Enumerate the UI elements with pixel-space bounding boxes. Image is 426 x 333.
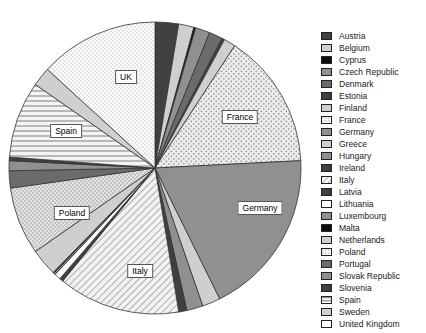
- legend-swatch-icon: [321, 188, 332, 196]
- legend-item-cyprus[interactable]: Cyprus: [321, 54, 426, 66]
- legend-item-germany[interactable]: Germany: [321, 126, 426, 138]
- legend-item-portugal[interactable]: Portugal: [321, 258, 426, 270]
- legend-label: Poland: [339, 247, 365, 257]
- legend-label: Portugal: [339, 259, 371, 269]
- slice-label-poland: Poland: [54, 206, 90, 220]
- legend-item-slovak-republic[interactable]: Slovak Republic: [321, 270, 426, 282]
- legend-label: Cyprus: [339, 55, 366, 65]
- legend-label: Netherlands: [339, 235, 385, 245]
- legend-swatch-icon: [321, 152, 332, 160]
- legend-label: Hungary: [339, 151, 371, 161]
- legend-item-luxembourg[interactable]: Luxembourg: [321, 210, 426, 222]
- chart-legend: AustriaBelgiumCyprusCzech RepublicDenmar…: [321, 30, 426, 330]
- legend-label: Finland: [339, 103, 367, 113]
- legend-label: Slovak Republic: [339, 271, 400, 281]
- legend-item-austria[interactable]: Austria: [321, 30, 426, 42]
- legend-item-italy[interactable]: Italy: [321, 174, 426, 186]
- legend-swatch-icon: [321, 92, 332, 100]
- legend-label: Belgium: [339, 43, 370, 53]
- legend-label: Luxembourg: [339, 211, 386, 221]
- legend-item-united-kingdom[interactable]: United Kingdom: [321, 318, 426, 330]
- legend-swatch-icon: [321, 128, 332, 136]
- legend-swatch-icon: [321, 284, 332, 292]
- legend-swatch-icon: [321, 248, 332, 256]
- legend-swatch-icon: [321, 68, 332, 76]
- legend-label: Sweden: [339, 307, 370, 317]
- legend-item-belgium[interactable]: Belgium: [321, 42, 426, 54]
- legend-label: Estonia: [339, 91, 367, 101]
- legend-swatch-icon: [321, 56, 332, 64]
- legend-label: Lithuania: [339, 199, 374, 209]
- legend-item-latvia[interactable]: Latvia: [321, 186, 426, 198]
- legend-item-france[interactable]: France: [321, 114, 426, 126]
- legend-swatch-icon: [321, 260, 332, 268]
- legend-item-greece[interactable]: Greece: [321, 138, 426, 150]
- legend-label: Ireland: [339, 163, 365, 173]
- legend-label: Austria: [339, 31, 365, 41]
- legend-swatch-icon: [321, 308, 332, 316]
- legend-swatch-icon: [321, 140, 332, 148]
- legend-item-estonia[interactable]: Estonia: [321, 90, 426, 102]
- legend-item-hungary[interactable]: Hungary: [321, 150, 426, 162]
- legend-label: Slovenia: [339, 283, 372, 293]
- legend-swatch-icon: [321, 80, 332, 88]
- pie-chart-figure: FranceGermanyItalyPolandSpainUK AustriaB…: [0, 0, 426, 333]
- legend-item-finland[interactable]: Finland: [321, 102, 426, 114]
- slice-label-spain: Spain: [50, 124, 82, 138]
- legend-swatch-icon: [321, 44, 332, 52]
- slice-label-france: France: [222, 110, 258, 124]
- legend-label: United Kingdom: [339, 319, 399, 329]
- legend-label: Malta: [339, 223, 360, 233]
- legend-item-czech-republic[interactable]: Czech Republic: [321, 66, 426, 78]
- legend-label: Germany: [339, 127, 374, 137]
- legend-label: Spain: [339, 295, 361, 305]
- legend-item-spain[interactable]: Spain: [321, 294, 426, 306]
- legend-swatch-icon: [321, 224, 332, 232]
- legend-item-ireland[interactable]: Ireland: [321, 162, 426, 174]
- legend-label: Czech Republic: [339, 67, 399, 77]
- legend-swatch-icon: [321, 200, 332, 208]
- legend-item-sweden[interactable]: Sweden: [321, 306, 426, 318]
- legend-swatch-icon: [321, 212, 332, 220]
- legend-swatch-icon: [321, 236, 332, 244]
- legend-label: Denmark: [339, 79, 373, 89]
- legend-item-lithuania[interactable]: Lithuania: [321, 198, 426, 210]
- legend-label: Latvia: [339, 187, 362, 197]
- legend-swatch-icon: [321, 296, 332, 304]
- legend-swatch-icon: [321, 320, 332, 328]
- legend-swatch-icon: [321, 116, 332, 124]
- legend-swatch-icon: [321, 32, 332, 40]
- legend-swatch-icon: [321, 104, 332, 112]
- slice-label-united-kingdom: UK: [115, 70, 137, 84]
- legend-item-slovenia[interactable]: Slovenia: [321, 282, 426, 294]
- legend-label: Greece: [339, 139, 367, 149]
- legend-swatch-icon: [321, 176, 332, 184]
- legend-swatch-icon: [321, 272, 332, 280]
- legend-item-poland[interactable]: Poland: [321, 246, 426, 258]
- slice-label-germany: Germany: [238, 201, 283, 215]
- legend-label: Italy: [339, 175, 355, 185]
- legend-label: France: [339, 115, 365, 125]
- slice-label-italy: Italy: [127, 264, 153, 278]
- legend-item-netherlands[interactable]: Netherlands: [321, 234, 426, 246]
- legend-swatch-icon: [321, 164, 332, 172]
- pie-slices-group: [9, 22, 301, 314]
- legend-item-malta[interactable]: Malta: [321, 222, 426, 234]
- legend-item-denmark[interactable]: Denmark: [321, 78, 426, 90]
